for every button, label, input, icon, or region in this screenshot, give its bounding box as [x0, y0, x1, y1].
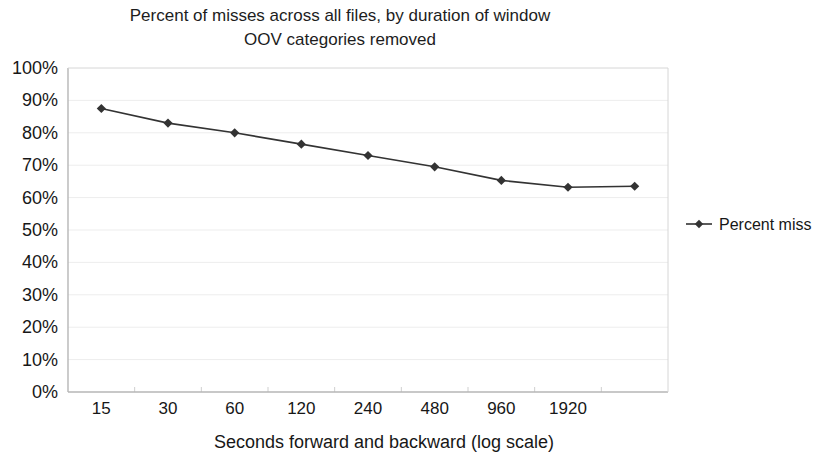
x-axis-tick-label: 1920	[549, 399, 587, 418]
data-point-marker	[230, 128, 239, 137]
data-point-marker	[563, 183, 572, 192]
y-axis-tick-label: 10%	[22, 350, 58, 370]
data-point-marker	[430, 162, 439, 171]
chart-legend: Percent miss	[686, 216, 811, 233]
series-markers-percent-miss	[97, 104, 640, 192]
legend-marker-sample	[695, 220, 703, 228]
y-axis-tick-label: 50%	[22, 220, 58, 240]
x-axis-tick-label: 120	[287, 399, 315, 418]
line-chart-svg: 100%90%80%70%60%50%40%30%20%10%0% 153060…	[0, 0, 824, 468]
x-axis-tick-label: 15	[92, 399, 111, 418]
y-axis-tick-label: 30%	[22, 285, 58, 305]
y-axis-tick-label: 70%	[22, 155, 58, 175]
gridlines-group	[68, 100, 668, 359]
x-axis-tick-marks	[135, 387, 602, 392]
chart-container: Percent of misses across all files, by d…	[0, 0, 824, 468]
data-point-marker	[97, 104, 106, 113]
x-axis-tick-labels: 1530601202404809601920	[92, 399, 587, 418]
x-axis-tick-label: 240	[354, 399, 382, 418]
data-point-marker	[497, 176, 506, 185]
x-axis-tick-label: 30	[159, 399, 178, 418]
data-point-marker	[297, 140, 306, 149]
y-axis-tick-label: 80%	[22, 123, 58, 143]
y-axis-tick-label: 100%	[12, 58, 58, 78]
series-line-percent-miss	[101, 109, 634, 188]
data-point-marker	[363, 151, 372, 160]
legend-label: Percent miss	[719, 216, 811, 233]
x-axis-title: Seconds forward and backward (log scale)	[214, 432, 554, 452]
data-point-marker	[163, 118, 172, 127]
x-axis-tick-label: 60	[225, 399, 244, 418]
y-axis-tick-label: 90%	[22, 90, 58, 110]
y-axis-tick-label: 60%	[22, 188, 58, 208]
y-axis-tick-label: 20%	[22, 317, 58, 337]
y-axis-tick-label: 40%	[22, 252, 58, 272]
y-axis-tick-label: 0%	[32, 382, 58, 402]
y-axis-tick-labels: 100%90%80%70%60%50%40%30%20%10%0%	[12, 58, 58, 402]
data-point-marker	[630, 182, 639, 191]
x-axis-tick-label: 960	[487, 399, 515, 418]
x-axis-tick-label: 480	[420, 399, 448, 418]
